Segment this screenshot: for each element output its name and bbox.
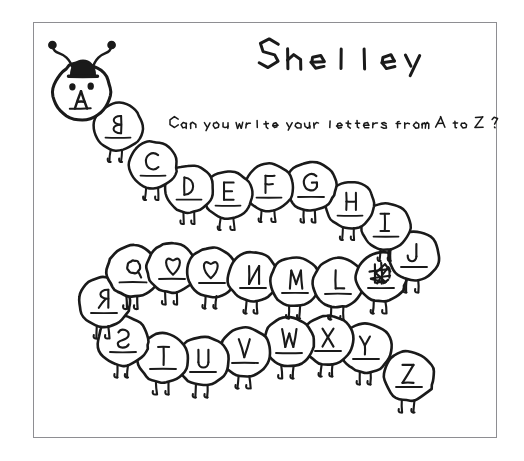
paper-frame [33,22,497,438]
worksheet-page: Shelley Can you write your letters from … [0,0,524,461]
